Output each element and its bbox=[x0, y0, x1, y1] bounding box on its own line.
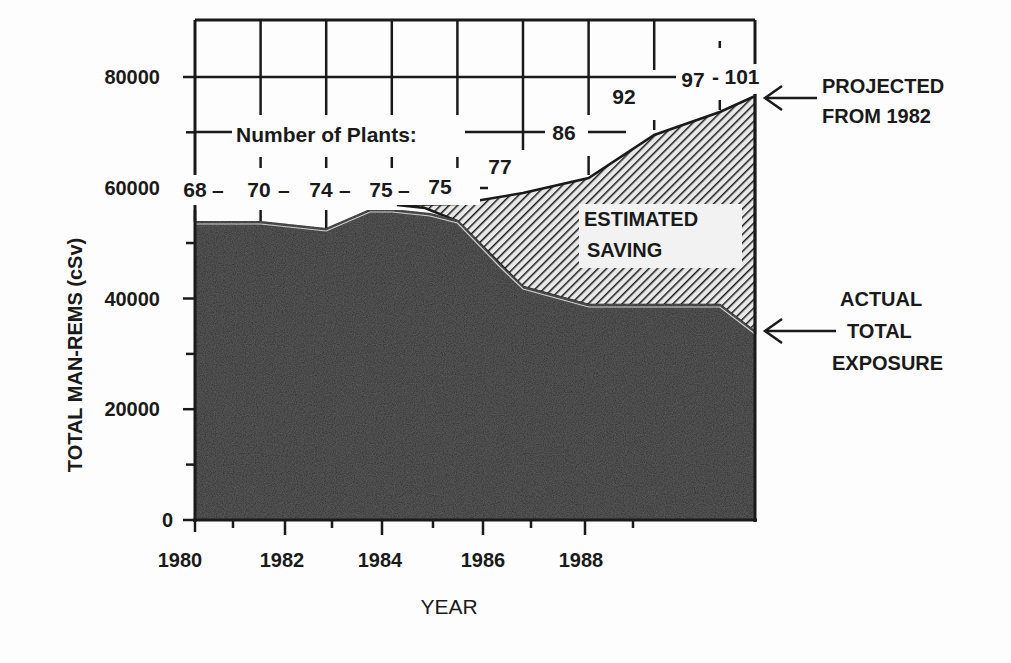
exposure-chart: ESTIMATED SAVING 0 20000 40000 60000 800… bbox=[0, 0, 1011, 663]
dash-sep: - bbox=[712, 65, 719, 88]
svg-text:1980: 1980 bbox=[158, 549, 203, 571]
projected-label-line1: PROJECTED bbox=[822, 75, 944, 97]
dash-sep: – bbox=[398, 178, 410, 201]
projected-label-line2: FROM 1982 bbox=[822, 105, 931, 127]
actual-arrow-icon bbox=[765, 319, 836, 343]
x-tick-labels: 1980 1982 1984 1986 1988 bbox=[158, 549, 604, 571]
plant-count-title: Number of Plants: bbox=[236, 123, 417, 146]
actual-label-line2: TOTAL bbox=[847, 320, 912, 342]
svg-text:1982: 1982 bbox=[260, 549, 305, 571]
svg-text:0: 0 bbox=[162, 509, 173, 531]
svg-text:70: 70 bbox=[247, 178, 270, 201]
svg-text:20000: 20000 bbox=[104, 398, 160, 420]
dash-sep: – bbox=[212, 178, 224, 201]
y-ticks bbox=[183, 77, 195, 520]
svg-text:75: 75 bbox=[369, 178, 393, 201]
svg-text:68: 68 bbox=[183, 178, 207, 201]
svg-text:1986: 1986 bbox=[461, 549, 506, 571]
svg-text:77: 77 bbox=[488, 155, 511, 178]
svg-text:1988: 1988 bbox=[559, 549, 604, 571]
x-ticks bbox=[195, 520, 633, 535]
svg-text:101: 101 bbox=[724, 65, 759, 88]
svg-text:86: 86 bbox=[552, 121, 575, 144]
x-axis-title: YEAR bbox=[420, 595, 477, 618]
svg-text:74: 74 bbox=[309, 178, 333, 201]
svg-text:75: 75 bbox=[428, 175, 452, 198]
svg-text:97: 97 bbox=[681, 68, 704, 91]
projected-arrow-icon bbox=[765, 86, 817, 110]
svg-text:92: 92 bbox=[612, 85, 635, 108]
svg-text:1984: 1984 bbox=[358, 549, 403, 571]
dash-sep: – bbox=[339, 178, 351, 201]
y-axis-title: TOTAL MAN-REMS (cSv) bbox=[64, 238, 86, 472]
y-tick-labels: 0 20000 40000 60000 80000 bbox=[104, 66, 173, 531]
actual-label-line1: ACTUAL bbox=[840, 288, 922, 310]
dash-sep: – bbox=[278, 178, 290, 201]
saving-label-line2: SAVING bbox=[587, 239, 662, 261]
saving-label-line1: ESTIMATED bbox=[584, 208, 698, 230]
svg-text:80000: 80000 bbox=[104, 66, 160, 88]
svg-text:40000: 40000 bbox=[104, 288, 160, 310]
svg-text:60000: 60000 bbox=[104, 177, 160, 199]
actual-label-line3: EXPOSURE bbox=[832, 352, 943, 374]
